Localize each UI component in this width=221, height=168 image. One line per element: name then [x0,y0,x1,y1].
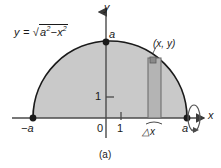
y-axis-label: y [104,2,110,13]
equation-lhs: y [14,26,20,38]
representative-strip [148,58,161,118]
left-endpoint-dot [30,115,37,122]
figure-caption: (a) [99,150,111,160]
delta-x-label: △x [142,127,155,137]
x-axis-label: x [208,110,214,121]
point-coordinates-label: (x, y) [153,39,175,49]
equation-radicand: a2−x2 [39,24,68,38]
point-marker-on-curve [150,57,156,63]
shaded-semicircle-region [33,41,187,118]
equation-radical: √a2−x2 [33,24,68,38]
right-endpoint-dot [184,115,191,122]
left-endpoint-label: −a [21,123,34,134]
origin-label: 0 [97,123,103,134]
apex-value-label: a [109,29,115,40]
figure-semicircle-solid-of-revolution: y = √a2−x2 y x a −a a 1 0 1 (x, y) △x (a… [0,0,221,168]
equation-exp-x: 2 [63,25,67,32]
equation-equals: = [23,26,30,38]
y-axis-tick-label-1: 1 [95,91,101,102]
curve-equation-label: y = √a2−x2 [14,24,68,38]
right-endpoint-label: a [182,123,188,134]
x-axis-tick-label-1: 1 [117,123,123,134]
delta-x-brace [146,122,162,124]
